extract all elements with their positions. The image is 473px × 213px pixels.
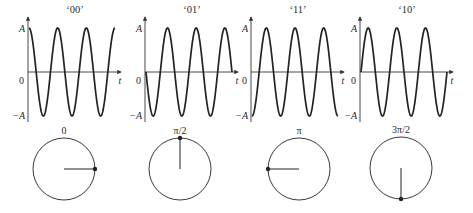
amplitude-pos-label: A: [350, 23, 358, 34]
phasor-tip-dot: [399, 197, 403, 201]
amplitude-pos-label: A: [241, 23, 249, 34]
time-axis-label: t: [451, 75, 454, 86]
phasor-tip-dot: [93, 167, 97, 171]
phase-label: π: [296, 125, 301, 136]
time-axis-label: t: [119, 75, 122, 86]
amplitude-neg-label: −A: [235, 110, 249, 121]
phase-label: 0: [62, 125, 67, 136]
time-axis-label: t: [236, 75, 239, 86]
phasor-tip-dot: [266, 167, 270, 171]
zero-label: 0: [19, 75, 24, 86]
zero-label: 0: [136, 75, 141, 86]
amplitude-neg-label: −A: [344, 110, 358, 121]
zero-label: 0: [242, 75, 247, 86]
panel-3: A0−At‘10’3π/2: [344, 4, 453, 201]
panel-2: A0−At‘11’π: [235, 4, 344, 200]
amplitude-neg-label: −A: [129, 110, 143, 121]
panel-0: A0−At‘00’0: [12, 4, 121, 200]
phase-modulation-diagram: A0−At‘00’0A0−At‘01’π/2A0−At‘11’πA0−At‘10…: [0, 0, 473, 213]
panel-1: A0−At‘01’π/2: [129, 4, 238, 200]
amplitude-pos-label: A: [135, 23, 143, 34]
bit-symbol-label: ‘10’: [398, 4, 416, 15]
amplitude-pos-label: A: [18, 23, 26, 34]
zero-label: 0: [351, 75, 356, 86]
bit-symbol-label: ‘01’: [183, 4, 201, 15]
time-axis-label: t: [342, 75, 345, 86]
bit-symbol-label: ‘11’: [289, 4, 306, 15]
amplitude-neg-label: −A: [12, 110, 26, 121]
phase-label: π/2: [174, 125, 187, 136]
phase-label: 3π/2: [392, 124, 410, 135]
bit-symbol-label: ‘00’: [66, 4, 84, 15]
phasor-tip-dot: [178, 136, 182, 140]
